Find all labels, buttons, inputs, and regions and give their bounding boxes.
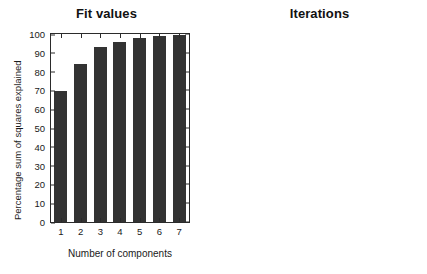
bar-fit-values-5: [133, 38, 146, 222]
x-tick-fit-values-5: 5: [137, 226, 142, 237]
x-tick-mark-top-fit-values-7: [179, 34, 180, 38]
x-tick-mark-fit-values-5: [140, 218, 141, 222]
y-tick-fit-values-10: 10: [34, 198, 51, 209]
chart-title-fit-values: Fit values: [0, 6, 213, 21]
x-tick-mark-fit-values-3: [100, 218, 101, 222]
y-tick-mark-right-fit-values-80: [185, 71, 189, 72]
y-tick-fit-values-40: 40: [34, 141, 51, 152]
y-axis-label-fit-values: Percentage sum of squares explained: [12, 61, 23, 221]
bar-fit-values-2: [74, 64, 87, 222]
bar-fit-values-3: [94, 47, 107, 222]
y-tick-fit-values-0: 0: [40, 217, 51, 228]
figure-canvas: Fit values 01020304050607080901001234567…: [0, 0, 427, 274]
x-tick-fit-values-2: 2: [78, 226, 83, 237]
y-tick-fit-values-20: 20: [34, 179, 51, 190]
y-tick-mark-right-fit-values-40: [185, 146, 189, 147]
y-tick-mark-right-fit-values-20: [185, 184, 189, 185]
x-tick-mark-fit-values-1: [61, 218, 62, 222]
y-tick-mark-right-fit-values-60: [185, 109, 189, 110]
y-tick-mark-right-fit-values-70: [185, 90, 189, 91]
y-tick-mark-right-fit-values-0: [185, 222, 189, 223]
x-tick-mark-top-fit-values-1: [61, 34, 62, 38]
bar-fit-values-7: [173, 35, 186, 222]
x-tick-fit-values-6: 6: [157, 226, 162, 237]
y-tick-fit-values-70: 70: [34, 85, 51, 96]
y-tick-fit-values-30: 30: [34, 160, 51, 171]
y-tick-fit-values-60: 60: [34, 104, 51, 115]
y-tick-fit-values-90: 90: [34, 47, 51, 58]
y-tick-mark-right-fit-values-50: [185, 128, 189, 129]
y-tick-mark-right-fit-values-30: [185, 165, 189, 166]
bar-fit-values-6: [153, 36, 166, 222]
x-tick-mark-fit-values-6: [159, 218, 160, 222]
x-tick-fit-values-7: 7: [176, 226, 181, 237]
chart-panel-iterations: Iterations 05001000150020002500300012345…: [213, 0, 426, 274]
x-tick-mark-fit-values-2: [81, 218, 82, 222]
plot-area-fit-values: 01020304050607080901001234567: [50, 33, 190, 223]
y-tick-fit-values-100: 100: [29, 29, 51, 40]
x-tick-mark-fit-values-7: [179, 218, 180, 222]
bar-fit-values-4: [113, 42, 126, 222]
y-tick-mark-right-fit-values-100: [185, 34, 189, 35]
chart-title-iterations: Iterations: [213, 6, 426, 21]
y-tick-mark-right-fit-values-10: [185, 203, 189, 204]
y-tick-fit-values-50: 50: [34, 123, 51, 134]
y-tick-mark-right-fit-values-90: [185, 52, 189, 53]
x-tick-mark-top-fit-values-5: [140, 34, 141, 38]
x-tick-mark-top-fit-values-4: [120, 34, 121, 38]
x-axis-label-fit-values: Number of components: [50, 248, 190, 259]
x-tick-mark-top-fit-values-6: [159, 34, 160, 38]
bar-fit-values-1: [54, 91, 67, 222]
bar-series-fit-values: [51, 34, 189, 222]
x-tick-mark-fit-values-4: [120, 218, 121, 222]
x-tick-fit-values-1: 1: [58, 226, 63, 237]
chart-panel-fit-values: Fit values 01020304050607080901001234567…: [0, 0, 213, 274]
x-tick-fit-values-4: 4: [117, 226, 122, 237]
x-tick-fit-values-3: 3: [98, 226, 103, 237]
x-tick-mark-top-fit-values-2: [81, 34, 82, 38]
x-tick-mark-top-fit-values-3: [100, 34, 101, 38]
y-tick-fit-values-80: 80: [34, 66, 51, 77]
